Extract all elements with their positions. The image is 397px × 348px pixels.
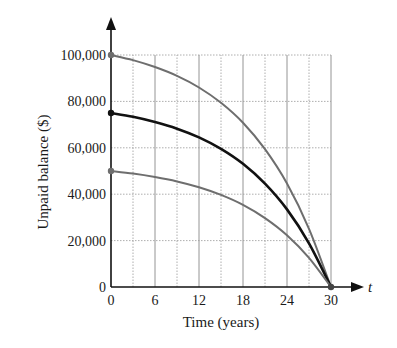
x-axis-symbol: t [368,279,373,295]
x-tick-label: 0 [108,293,115,308]
start-point-marker [108,52,114,58]
start-point-marker [108,168,114,174]
y-tick-label: 100,000 [61,48,107,63]
x-tick-label: 30 [324,293,338,308]
y-axis-label: Unpaid balance ($) [35,115,52,230]
x-tick-label: 12 [192,293,206,308]
y-tick-label: 60,000 [68,141,107,156]
y-tick-label: 20,000 [68,234,107,249]
end-point-marker [328,284,334,290]
grid-lines [111,55,331,287]
unpaid-balance-chart: t 020,00040,00060,00080,000100,000 06121… [0,0,397,348]
y-tick-labels: 020,00040,00060,00080,000100,000 [61,48,107,295]
x-tick-label: 18 [236,293,250,308]
axes: t [106,17,373,295]
x-tick-labels: 0612182430 [108,293,339,308]
x-tick-label: 6 [152,293,159,308]
x-axis-label: Time (years) [183,314,260,331]
x-axis-arrow-icon [351,282,364,292]
balance-curve [111,55,331,287]
y-tick-label: 40,000 [68,187,107,202]
y-tick-label: 80,000 [68,94,107,109]
x-tick-label: 24 [280,293,294,308]
start-point-marker [108,110,114,116]
y-axis-arrow-icon [106,17,116,30]
y-tick-label: 0 [99,280,106,295]
